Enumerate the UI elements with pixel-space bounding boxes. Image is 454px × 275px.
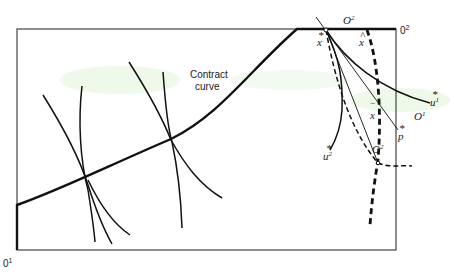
indifference-curve-1c [88,180,130,235]
O1-right-label: O1 [414,110,425,122]
x-hat-label: x [358,36,364,48]
indifference-curve-1b [80,86,95,242]
x-star-point [324,28,328,32]
origin-1-label: 01 [3,257,13,269]
origin-2-corner-label: 02 [400,24,410,36]
edgeworth-box-frame [17,29,396,250]
offer-curve-O2-dashed [367,30,380,225]
x-bar-point [376,161,380,165]
contract-curve [17,29,396,250]
contract-curve-label-line2: curve [195,81,220,92]
u2-star-label: u2 [323,150,333,162]
indifference-curve-2b [163,72,182,228]
x-bar-label: x [369,109,375,121]
p-star-label: p [397,130,404,142]
x-star-label: x [316,36,322,48]
O2-bottom-label: O2 [372,143,384,155]
O2-top-label: O2 [343,14,355,26]
edgeworth-box-diagram: Contract curve 01 02 O2 O2 O1 * x ^ x ‾ … [0,0,454,275]
contract-curve-label-line1: Contract [190,69,228,80]
